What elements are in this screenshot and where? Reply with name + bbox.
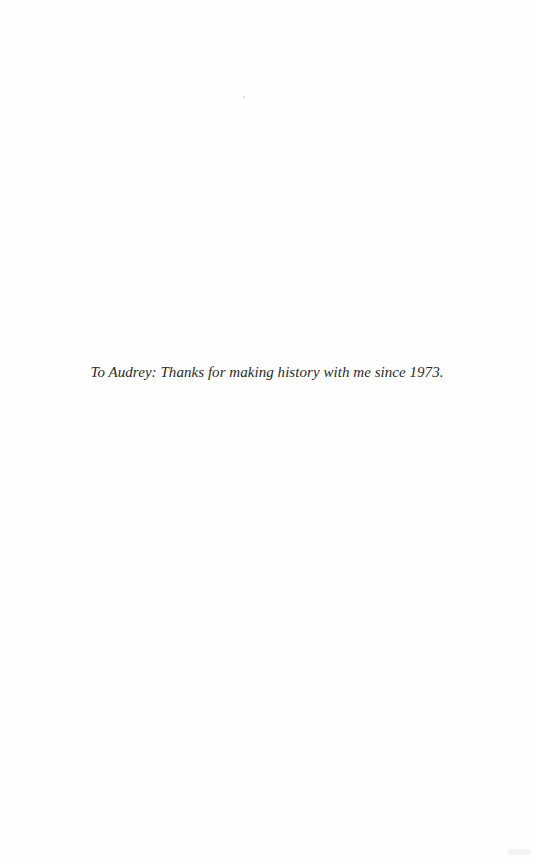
dedication-text: To Audrey: Thanks for making history wit…: [0, 364, 534, 381]
scan-speck: [243, 96, 245, 98]
scan-smudge: [508, 849, 530, 855]
book-page: To Audrey: Thanks for making history wit…: [0, 0, 534, 859]
